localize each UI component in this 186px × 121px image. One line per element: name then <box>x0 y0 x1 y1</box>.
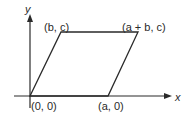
parallelogram <box>30 32 138 96</box>
y-axis-label: y <box>24 3 32 15</box>
vertex-label-abc: (a + b, c) <box>122 21 166 33</box>
x-axis-label: x <box>174 91 181 103</box>
vertex-label-origin: (0, 0) <box>31 100 57 112</box>
vertex-label-bc: (b, c) <box>44 21 69 33</box>
y-axis-arrow-icon <box>27 14 33 22</box>
vertex-label-a0: (a, 0) <box>98 100 124 112</box>
parallelogram-diagram: y x (b, c) (a + b, c) (0, 0) (a, 0) <box>0 0 186 121</box>
x-axis-arrow-icon <box>164 93 172 99</box>
